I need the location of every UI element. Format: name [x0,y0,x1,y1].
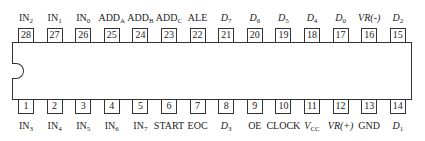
pin-24: 24 [132,28,148,42]
pin-19: 19 [275,28,291,42]
pin-16: 16 [361,28,377,42]
pin-label: IN5 [76,120,90,131]
pin-15: 15 [390,28,406,42]
pin-4: 4 [104,100,120,114]
pin-1: 1 [18,100,34,114]
pin-label: IN2 [19,12,33,23]
pin-3: 3 [75,100,91,114]
pin-label: GND [358,120,380,131]
pin-label: CLOCK [266,120,300,131]
pin-label: START [154,120,184,131]
pin-label: IN6 [105,120,119,131]
pin-20: 20 [247,28,263,42]
pin-label: VR(-) [358,12,380,23]
pin-label: D6 [249,12,260,23]
pin-11: 11 [304,100,320,114]
pin1-notch [12,63,24,79]
pin-10: 10 [275,100,291,114]
pin-label: D2 [392,12,403,23]
pin-label: D4 [307,12,318,23]
pin-23: 23 [161,28,177,42]
pin-label: D0 [335,12,346,23]
pin-7: 7 [190,100,206,114]
pin-17: 17 [333,28,349,42]
pin-label: VR(+) [328,120,354,131]
pin-label: ADDA [98,12,125,23]
pin-label: IN1 [48,12,62,23]
pin-28: 28 [18,28,34,42]
pin-5: 5 [132,100,148,114]
pin-13: 13 [361,100,377,114]
pin-label: OE [248,120,261,131]
pin-9: 9 [247,100,263,114]
pin-6: 6 [161,100,177,114]
pin-label: EOC [188,120,208,131]
pin-25: 25 [104,28,120,42]
pin-label: IN0 [76,12,90,23]
pin-label: D1 [392,120,403,131]
pin-label: IN7 [133,120,147,131]
pin-label: D3 [221,120,232,131]
pin-18: 18 [304,28,320,42]
pin-label: ADDC [156,12,182,23]
pin-12: 12 [333,100,349,114]
pin-8: 8 [218,100,234,114]
pin-label: ADDB [127,12,153,23]
pin-21: 21 [218,28,234,42]
pin-label: D7 [221,12,232,23]
pin-label: IN4 [48,120,62,131]
pin-2: 2 [47,100,63,114]
pin-14: 14 [390,100,406,114]
pin-label: VCC [304,120,319,131]
pin-label: ALE [188,12,207,23]
pin-27: 27 [47,28,63,42]
pin-22: 22 [190,28,206,42]
pin-label: D5 [278,12,289,23]
pin-26: 26 [75,28,91,42]
pin-label: IN3 [19,120,33,131]
ic-package-body [12,42,412,100]
